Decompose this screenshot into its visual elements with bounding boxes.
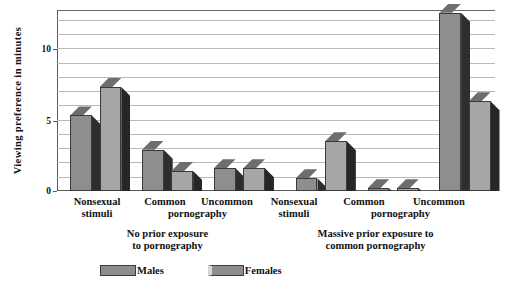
bar-front-face — [142, 150, 164, 191]
bar-top-face — [142, 141, 164, 150]
figure-bar-chart: Viewing preference in minutes 10 5 0 — [0, 0, 505, 293]
bar-top-face — [70, 106, 92, 115]
bar-front-face — [171, 171, 193, 191]
bar-females-common-massive-exposure[interactable] — [397, 188, 419, 191]
category-label-nonsexual-massive-exposure: Nonsexual stimuli — [252, 196, 336, 220]
bar-females-uncommon-massive-exposure[interactable] — [469, 101, 491, 191]
panel-label-line1: Massive prior exposure to — [288, 228, 463, 240]
bar-front-face — [397, 188, 419, 191]
chart-legend: Males Females — [100, 265, 282, 276]
bar-group-nonsexual-massive-exposure — [296, 10, 360, 191]
category-label-line1: Nonsexual — [252, 196, 336, 208]
category-label-nonsexual-no-exposure: Nonsexual stimuli — [55, 196, 139, 220]
bar-top-face — [368, 179, 390, 188]
bar-side-face — [491, 101, 500, 191]
bar-front-face — [439, 13, 461, 191]
bar-top-face — [469, 92, 491, 101]
bar-side-face — [419, 188, 428, 191]
y-tick-label-10: 10 — [42, 44, 52, 54]
bar-group-common-no-exposure — [142, 10, 206, 191]
bar-males-nonsexual-massive-exposure[interactable] — [296, 178, 318, 191]
category-label-line1: Common — [327, 196, 401, 208]
bar-top-face — [325, 132, 347, 141]
legend-swatch-males — [100, 265, 136, 276]
panel-label-line2: common pornography — [288, 240, 463, 252]
plot-area: 10 5 0 — [57, 10, 495, 191]
category-label-line1: Nonsexual — [55, 196, 139, 208]
bar-side-face — [121, 87, 130, 191]
bar-top-face — [243, 159, 265, 168]
bar-females-nonsexual-no-exposure[interactable] — [100, 87, 122, 191]
category-label-pornography-left: pornography — [140, 208, 255, 220]
category-label-line1: Uncommon — [396, 196, 482, 208]
legend-item-females[interactable]: Females — [208, 265, 282, 276]
bar-front-face — [296, 178, 318, 191]
bar-side-face — [347, 141, 356, 191]
bar-top-face — [214, 159, 236, 168]
bar-males-common-massive-exposure[interactable] — [368, 188, 390, 191]
category-label-line2: pornography — [140, 208, 255, 220]
legend-swatch-females — [208, 265, 244, 276]
bar-side-face — [265, 168, 274, 191]
bar-top-face — [100, 78, 122, 87]
bar-group-common-massive-exposure — [368, 10, 432, 191]
y-axis-title: Viewing preference in minutes — [12, 6, 23, 196]
bar-top-face — [296, 169, 318, 178]
panel-label-line2: to pornography — [95, 240, 240, 252]
bar-males-common-no-exposure[interactable] — [142, 150, 164, 191]
bar-males-uncommon-no-exposure[interactable] — [214, 168, 236, 191]
category-label-uncommon-massive-exposure: Uncommon — [396, 196, 482, 208]
bar-front-face — [325, 141, 347, 191]
bar-group-uncommon-no-exposure — [214, 10, 278, 191]
panel-label-massive-exposure: Massive prior exposure to common pornogr… — [288, 228, 463, 252]
legend-item-males[interactable]: Males — [100, 265, 164, 276]
category-label-line2: stimuli — [252, 208, 336, 220]
bar-front-face — [469, 101, 491, 191]
bar-front-face — [214, 168, 236, 191]
bar-top-face — [171, 162, 193, 171]
y-tick-label-0: 0 — [46, 186, 51, 196]
bar-front-face — [70, 115, 92, 191]
bar-females-common-no-exposure[interactable] — [171, 171, 193, 191]
category-label-pornography-right: pornography — [343, 208, 458, 220]
bar-front-face — [100, 87, 122, 191]
bar-top-face — [439, 4, 461, 13]
legend-label-males: Males — [137, 265, 164, 276]
y-tick-mark-0 — [53, 191, 57, 192]
bar-top-face — [397, 179, 419, 188]
bar-side-face — [193, 171, 202, 191]
category-label-common-massive-exposure: Common — [327, 196, 401, 208]
category-label-line2: pornography — [343, 208, 458, 220]
panel-label-no-exposure: No prior exposure to pornography — [95, 228, 240, 252]
bar-males-nonsexual-no-exposure[interactable] — [70, 115, 92, 191]
bar-females-uncommon-no-exposure[interactable] — [243, 168, 265, 191]
bar-group-nonsexual-no-exposure — [70, 10, 134, 191]
bar-males-uncommon-massive-exposure[interactable] — [439, 13, 461, 191]
panel-label-line1: No prior exposure — [95, 228, 240, 240]
bar-females-nonsexual-massive-exposure[interactable] — [325, 141, 347, 191]
bar-series-container — [57, 10, 495, 191]
category-label-line2: stimuli — [55, 208, 139, 220]
bar-group-uncommon-massive-exposure — [439, 10, 503, 191]
legend-label-females: Females — [245, 265, 282, 276]
bar-front-face — [243, 168, 265, 191]
y-tick-label-5: 5 — [46, 116, 51, 126]
bar-front-face — [368, 188, 390, 191]
